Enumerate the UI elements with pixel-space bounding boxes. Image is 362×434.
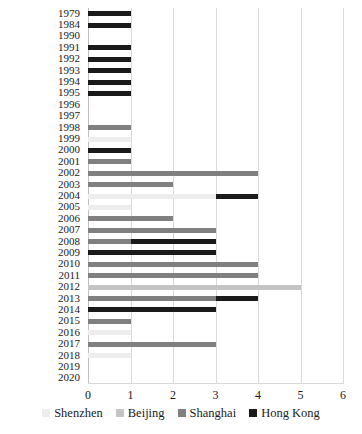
plot-area <box>88 8 343 384</box>
x-axis-tick-5: 5 <box>298 388 304 402</box>
bar-row <box>88 353 343 359</box>
bar-row <box>88 204 343 210</box>
bar-segment-shanghai <box>88 273 258 278</box>
bar-segment-hong-kong <box>131 239 216 244</box>
legend-label: Hong Kong <box>261 406 320 420</box>
y-axis-label-1996: 1996 <box>58 99 80 110</box>
chart-legend: ShenzhenBeijingShanghaiHong Kong <box>0 406 362 420</box>
y-axis-label-1997: 1997 <box>58 110 80 121</box>
legend-item-hong-kong[interactable]: Hong Kong <box>249 406 320 420</box>
x-axis-line <box>88 383 343 384</box>
y-axis-label-1992: 1992 <box>58 53 80 64</box>
bar-row <box>88 79 343 85</box>
y-axis-label-2020: 2020 <box>58 372 80 383</box>
y-axis-label-2004: 2004 <box>58 190 80 201</box>
bar-segment-shanghai <box>88 262 258 267</box>
legend-item-shenzhen[interactable]: Shenzhen <box>42 406 103 420</box>
bar-row <box>88 307 343 313</box>
y-axis-label-2005: 2005 <box>58 201 80 212</box>
bar-row <box>88 11 343 17</box>
y-axis-label-2009: 2009 <box>58 247 80 258</box>
legend-swatch-icon <box>178 409 186 417</box>
bar-segment-shenzhen <box>88 330 131 335</box>
bar-segment-hong-kong <box>216 296 259 301</box>
bar-segment-shenzhen <box>88 194 216 199</box>
bar-segment-hong-kong <box>88 148 131 153</box>
y-axis-label-2018: 2018 <box>58 350 80 361</box>
bar-row <box>88 341 343 347</box>
y-axis-label-2013: 2013 <box>58 293 80 304</box>
y-axis-label-1991: 1991 <box>58 42 80 53</box>
y-axis-year-labels: 1979198419901991199219931994199519961997… <box>0 8 86 384</box>
y-axis-label-2002: 2002 <box>58 167 80 178</box>
y-axis-label-1990: 1990 <box>58 30 80 41</box>
x-axis-tick-1: 1 <box>128 388 134 402</box>
legend-swatch-icon <box>116 409 124 417</box>
bar-segment-hong-kong <box>88 91 131 96</box>
x-axis-tick-3: 3 <box>213 388 219 402</box>
bar-row <box>88 250 343 256</box>
bar-segment-shanghai <box>88 182 173 187</box>
bar-segment-beijing <box>88 285 301 290</box>
y-axis-label-2017: 2017 <box>58 338 80 349</box>
bar-row <box>88 113 343 119</box>
bar-segment-shanghai <box>88 319 131 324</box>
bar-row <box>88 318 343 324</box>
bar-segment-hong-kong <box>88 68 131 73</box>
bar-segment-shanghai <box>88 228 216 233</box>
legend-item-beijing[interactable]: Beijing <box>116 406 165 420</box>
legend-swatch-icon <box>249 409 257 417</box>
y-axis-label-2015: 2015 <box>58 315 80 326</box>
bar-row <box>88 284 343 290</box>
gridline-6 <box>343 8 344 384</box>
y-axis-label-1993: 1993 <box>58 65 80 76</box>
bar-segment-shanghai <box>88 159 131 164</box>
bar-row <box>88 136 343 142</box>
y-axis-label-2016: 2016 <box>58 327 80 338</box>
y-axis-label-2019: 2019 <box>58 361 80 372</box>
bar-row <box>88 227 343 233</box>
y-axis-label-2014: 2014 <box>58 304 80 315</box>
bar-segment-shenzhen <box>88 205 131 210</box>
y-axis-label-1998: 1998 <box>58 122 80 133</box>
y-axis-label-2001: 2001 <box>58 156 80 167</box>
x-axis-tick-labels: 0123456 <box>88 388 343 406</box>
bar-row <box>88 68 343 74</box>
y-axis-label-2007: 2007 <box>58 224 80 235</box>
bar-row <box>88 170 343 176</box>
y-axis-label-1994: 1994 <box>58 76 80 87</box>
legend-label: Shenzhen <box>54 406 103 420</box>
legend-swatch-icon <box>42 409 50 417</box>
stacked-bar-chart: 1979198419901991199219931994199519961997… <box>0 0 362 434</box>
bar-row <box>88 56 343 62</box>
bar-row <box>88 33 343 39</box>
bar-segment-shenzhen <box>88 353 131 358</box>
bar-row <box>88 239 343 245</box>
bar-segment-hong-kong <box>88 307 216 312</box>
bar-row <box>88 193 343 199</box>
bar-segment-shanghai <box>88 342 216 347</box>
y-axis-label-2010: 2010 <box>58 258 80 269</box>
bar-rows <box>88 8 343 384</box>
bar-row <box>88 296 343 302</box>
bar-row <box>88 330 343 336</box>
bar-segment-hong-kong <box>88 11 131 16</box>
y-axis-label-2011: 2011 <box>58 270 80 281</box>
bar-segment-hong-kong <box>216 194 259 199</box>
bar-segment-shenzhen <box>88 137 131 142</box>
x-axis-tick-4: 4 <box>255 388 261 402</box>
bar-row <box>88 375 343 381</box>
bar-segment-shanghai <box>88 216 173 221</box>
bar-segment-hong-kong <box>88 250 216 255</box>
legend-item-shanghai[interactable]: Shanghai <box>178 406 237 420</box>
y-axis-label-2008: 2008 <box>58 236 80 247</box>
bar-segment-hong-kong <box>88 45 131 50</box>
bar-row <box>88 125 343 131</box>
bar-segment-shanghai <box>88 239 131 244</box>
bar-row <box>88 364 343 370</box>
x-axis-tick-0: 0 <box>85 388 91 402</box>
legend-label: Beijing <box>128 406 165 420</box>
bar-row <box>88 159 343 165</box>
y-axis-label-2006: 2006 <box>58 213 80 224</box>
y-axis-label-1999: 1999 <box>58 133 80 144</box>
